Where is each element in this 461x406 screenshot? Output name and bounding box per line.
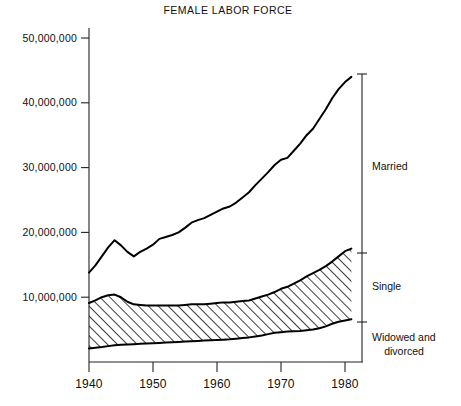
x-tick-label-1980: 1980: [331, 377, 359, 391]
female-labor-force-chart: FEMALE LABOR FORCE 10,000,00020,000,0003…: [0, 0, 461, 406]
x-tick-label-1940: 1940: [75, 377, 103, 391]
y-tick-label-10000000: 10,000,000: [22, 291, 77, 303]
x-tick-label-1950: 1950: [139, 377, 167, 391]
chart-container: FEMALE LABOR FORCE 10,000,00020,000,0003…: [0, 0, 461, 406]
y-axis-ticks: [81, 38, 89, 297]
single-band-area: [89, 249, 351, 349]
x-axis-ticks: [89, 362, 345, 372]
legend-label-married: Married: [372, 160, 408, 172]
y-tick-label-50000000: 50,000,000: [22, 32, 77, 44]
x-tick-label-1970: 1970: [267, 377, 295, 391]
y-tick-label-30000000: 30,000,000: [22, 161, 77, 173]
x-tick-label-1960: 1960: [203, 377, 231, 391]
y-tick-label-40000000: 40,000,000: [22, 96, 77, 108]
y-axis-tick-labels: 10,000,00020,000,00030,000,00040,000,000…: [22, 32, 77, 303]
x-axis-tick-labels: 19401950196019701980: [75, 377, 359, 391]
legend-label-widowed-line2: divorced: [384, 345, 424, 357]
chart-title: FEMALE LABOR FORCE: [163, 4, 292, 16]
y-tick-label-20000000: 20,000,000: [22, 226, 77, 238]
legend-label-single: Single: [372, 280, 401, 292]
series-line-total-married-top: [89, 77, 351, 273]
legend-label-widowed-line1: Widowed and: [372, 331, 436, 343]
